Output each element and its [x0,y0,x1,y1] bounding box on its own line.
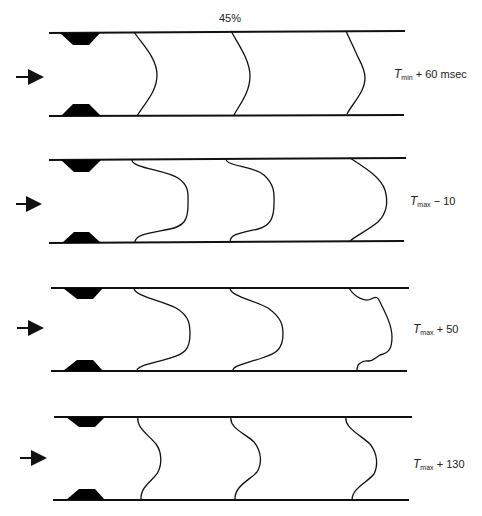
stenosis-top [63,288,103,299]
velocity-profile-3 [346,417,377,500]
time-subscript: max [420,329,433,336]
velocity-profile-2 [231,31,250,115]
panel-tmax-minus-10 [16,158,406,243]
time-label-panel-3: Tmax + 50 [413,322,458,336]
panel-tmax-plus-130 [20,417,412,500]
vessel-wall-bottom [49,241,404,243]
velocity-profile-3 [346,31,365,114]
time-value: 60 msec [425,68,467,80]
vessel-wall-top [49,31,405,33]
time-subscript: max [417,201,430,208]
velocity-profile-2 [226,159,274,242]
velocity-profile-1 [134,288,190,371]
velocity-profile-1 [134,32,157,116]
time-subscript: min [401,74,412,81]
time-operator: + [437,323,443,335]
stenosis-bottom [63,360,103,371]
panel-tmax-plus-50 [17,288,409,371]
velocity-profile-2 [230,288,283,371]
stenosis-top [60,33,100,45]
time-value: 130 [446,458,464,470]
velocity-profile-3 [350,158,387,241]
vessel-wall-bottom [49,115,404,116]
time-subscript: max [420,464,433,471]
time-operator: + [416,68,422,80]
panel-tmin-plus-60 [16,31,405,116]
stenosis-top [61,160,101,172]
velocity-profile-1 [132,160,188,242]
stenosis-bottom [62,232,101,243]
time-value: 10 [443,195,455,207]
stenosis-percentage-label: 45% [219,12,241,24]
stenosis-bottom [61,104,101,116]
velocity-profile-1 [138,417,161,500]
time-label-panel-1: Tmin + 60 msec [394,67,467,81]
stenosis-bottom [66,489,105,500]
velocity-profile-3 [349,288,392,371]
time-value: 50 [446,323,458,335]
stenosis-top [66,417,105,427]
time-operator: − [434,195,440,207]
time-label-panel-2: Tmax − 10 [410,194,455,208]
time-operator: + [437,458,443,470]
velocity-profile-2 [231,417,261,500]
time-label-panel-4: Tmax + 130 [413,457,465,471]
